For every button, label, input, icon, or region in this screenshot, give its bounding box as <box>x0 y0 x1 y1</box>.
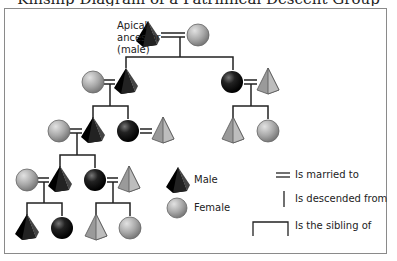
legend-female-label: Female <box>194 202 230 213</box>
node-g2-daughter <box>221 71 243 93</box>
node-g3r-daughter <box>257 120 279 142</box>
legend-married-icon <box>276 173 290 177</box>
node-g3-son <box>81 117 105 143</box>
apical-ancestor-label: Apical ancestor (male) <box>117 20 160 56</box>
apical-label-line-1: Apical <box>117 20 160 32</box>
node-g5r-daughter <box>119 217 141 239</box>
node-g2-wife <box>82 71 104 93</box>
node-g3-daughter-husband <box>152 117 174 143</box>
apical-label-line-2: ancestor <box>117 32 160 44</box>
node-g3-wife <box>48 120 70 142</box>
node-g4-son <box>48 166 72 192</box>
legend-male-icon <box>166 167 190 193</box>
legend-sibling-icon <box>253 222 288 236</box>
node-g3r-son <box>222 117 244 143</box>
legend-descended-label: Is descended from <box>295 193 387 204</box>
node-apical-wife <box>187 24 209 46</box>
legend-male-label: Male <box>194 174 218 185</box>
node-g4-wife <box>16 169 38 191</box>
apical-label-line-3: (male) <box>117 44 160 56</box>
node-g4-daughter-husband <box>118 166 140 192</box>
node-g5-son <box>15 214 39 240</box>
node-g5-daughter <box>51 217 73 239</box>
node-g4-daughter <box>84 169 106 191</box>
node-g5r-son <box>85 214 107 240</box>
legend-married-label: Is married to <box>295 169 359 180</box>
node-g2-son <box>114 68 138 94</box>
node-g3-daughter <box>117 120 139 142</box>
legend-female-icon <box>167 198 187 218</box>
legend-sibling-label: Is the sibling of <box>295 220 371 231</box>
node-g2-daughter-husband <box>257 68 279 94</box>
